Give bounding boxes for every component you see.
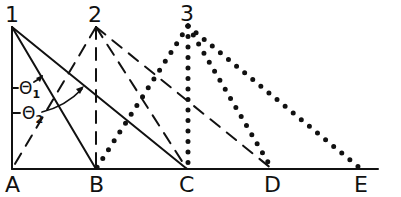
- segment-2-D: [96, 27, 272, 169]
- label-theta2: Θ2: [22, 103, 43, 126]
- label-apex-1: 1: [5, 2, 19, 27]
- triangle-diagram: 1 2 3 A B C D E Θ1 Θ2: [0, 0, 401, 197]
- label-base-A: A: [5, 172, 20, 197]
- label-base-E: E: [354, 172, 368, 197]
- label-base-D: D: [264, 172, 281, 197]
- label-apex-3: 3: [180, 1, 194, 26]
- label-base-C: C: [179, 172, 194, 197]
- label-theta1: Θ1: [19, 78, 40, 101]
- label-base-B: B: [89, 172, 104, 197]
- segment-3-D: [188, 26, 272, 169]
- segment-3-E: [188, 26, 361, 169]
- label-apex-2: 2: [88, 2, 102, 27]
